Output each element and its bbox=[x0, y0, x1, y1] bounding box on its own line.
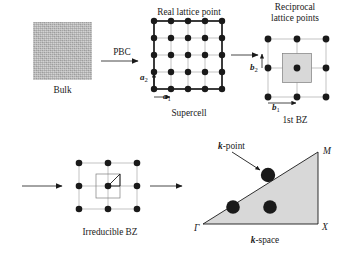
kspace-triangle bbox=[203, 152, 318, 224]
irreducible-bz-lattice bbox=[76, 160, 141, 213]
k-point-leader-arrow bbox=[232, 152, 260, 170]
figure-canvas: Bulk PBC Real lattice point a2 a1 Superc… bbox=[0, 0, 342, 257]
kpoint-lower-left bbox=[226, 200, 240, 214]
kpoint-upper bbox=[261, 168, 275, 182]
reciprocal-lattice bbox=[262, 36, 329, 103]
kspace-triangle-shape bbox=[203, 152, 318, 224]
diagram-vector-layer bbox=[0, 0, 342, 257]
kpoint-lower-right bbox=[263, 200, 277, 214]
supercell-lattice bbox=[151, 18, 225, 97]
